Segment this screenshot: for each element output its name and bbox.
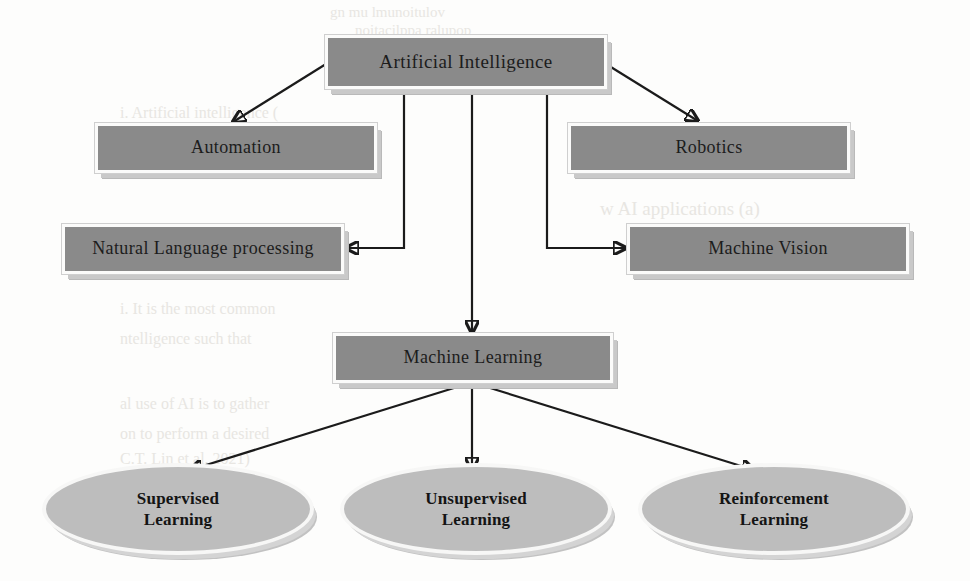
node-machine-learning[interactable]: Machine Learning [333,333,613,383]
ghost-text-line6: i. It is the most common [120,300,276,318]
node-label-reinforcement-learning-line2: Learning [719,509,829,530]
node-label-natural-language-processing: Natural Language processing [92,239,314,259]
node-automation[interactable]: Automation [95,123,377,173]
node-unsupervised-learning[interactable]: Unsupervised Learning [340,463,612,555]
ghost-text-line1: gn mu lmunoitulov [330,4,445,21]
ghost-text-line3: i. Artificial intelligence ( [120,104,278,122]
node-artificial-intelligence[interactable]: Artificial Intelligence [325,35,607,89]
edge-ai-to-automation [233,64,326,122]
node-label-artificial-intelligence: Artificial Intelligence [379,52,552,73]
edge-ml-to-supervised-learning [190,383,470,470]
edge-ml-to-reinforcement-learning [474,383,754,470]
edge-ai-to-robotics [606,64,698,121]
node-label-supervised-learning-line1: Supervised [137,488,219,509]
node-label-machine-vision: Machine Vision [708,239,828,259]
diagram-canvas: gn mu lmunoitulov noitacilppa ralupop i.… [0,0,970,581]
node-reinforcement-learning[interactable]: Reinforcement Learning [638,463,910,555]
node-label-robotics: Robotics [675,138,742,158]
node-label-automation: Automation [191,138,281,158]
node-robotics[interactable]: Robotics [568,123,850,173]
node-label-unsupervised-learning-line1: Unsupervised [425,488,527,509]
node-natural-language-processing[interactable]: Natural Language processing [62,224,344,274]
ghost-text-line9: on to perform a desired [120,425,269,443]
ghost-text-line5: w AI applications (a) [600,198,760,220]
node-label-unsupervised-learning-line2: Learning [425,509,527,530]
ghost-text-line8: al use of AI is to gather [120,395,269,413]
node-label-machine-learning: Machine Learning [404,348,543,368]
node-label-reinforcement-learning-line1: Reinforcement [719,488,829,509]
node-machine-vision[interactable]: Machine Vision [627,224,909,274]
node-label-supervised-learning-line2: Learning [137,509,219,530]
ghost-text-line7: ntelligence such that [120,330,252,348]
node-supervised-learning[interactable]: Supervised Learning [42,463,314,555]
